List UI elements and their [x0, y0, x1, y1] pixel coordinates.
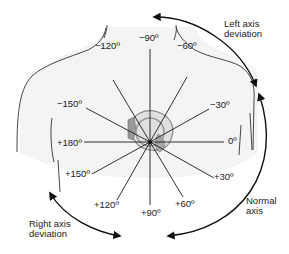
axis-origin-dot: [148, 140, 152, 144]
axis-label-p90: +90º: [141, 208, 161, 218]
axis-label-m150: −150º: [57, 99, 82, 109]
axis-label-p30: +30º: [214, 172, 234, 182]
right-axis-deviation-label: Right axis deviation: [29, 219, 71, 239]
hexaxial-diagram: −90º −120º −60º −30º −150º 0º +180º +150…: [0, 0, 289, 254]
axis-label-p180: +180º: [57, 138, 82, 148]
axis-label-m120: −120º: [95, 41, 120, 51]
axis-label-p150: +150º: [65, 169, 90, 179]
axis-label-z0: 0º: [228, 136, 237, 146]
axis-label-m60: −60º: [177, 41, 197, 51]
left-axis-deviation-label: Left axis deviation: [224, 19, 262, 39]
axis-label-m90: −90º: [139, 33, 159, 43]
axis-label-p60: +60º: [175, 199, 195, 209]
normal-axis-label: Normal axis: [246, 196, 277, 216]
axis-label-p120: +120º: [94, 200, 119, 210]
axis-label-m30: −30º: [210, 100, 230, 110]
